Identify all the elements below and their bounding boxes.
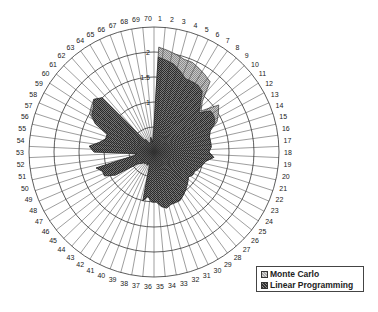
svg-text:5: 5 — [205, 26, 209, 33]
svg-text:3: 3 — [182, 18, 186, 25]
svg-text:53: 53 — [16, 149, 24, 156]
svg-text:33: 33 — [180, 280, 188, 287]
svg-text:1: 1 — [146, 99, 150, 106]
legend-label: Monte Carlo — [270, 269, 319, 280]
svg-text:38: 38 — [120, 280, 128, 287]
svg-text:2: 2 — [170, 16, 174, 23]
svg-text:46: 46 — [42, 228, 50, 235]
legend-item-linear-programming: Linear Programming — [261, 280, 363, 291]
svg-text:29: 29 — [224, 261, 232, 268]
svg-text:56: 56 — [21, 113, 29, 120]
svg-text:4: 4 — [193, 22, 197, 29]
svg-text:10: 10 — [251, 61, 259, 68]
svg-text:69: 69 — [132, 16, 140, 23]
svg-text:68: 68 — [120, 18, 128, 25]
svg-text:45: 45 — [49, 237, 57, 244]
svg-text:1.5: 1.5 — [140, 74, 150, 81]
svg-text:41: 41 — [87, 267, 95, 274]
svg-text:51: 51 — [18, 173, 26, 180]
svg-text:47: 47 — [35, 218, 43, 225]
svg-text:52: 52 — [17, 161, 25, 168]
svg-text:12: 12 — [265, 80, 273, 87]
svg-text:23: 23 — [271, 207, 279, 214]
svg-text:26: 26 — [251, 237, 259, 244]
svg-text:61: 61 — [49, 61, 57, 68]
svg-text:15: 15 — [279, 113, 287, 120]
svg-text:11: 11 — [259, 70, 266, 77]
svg-text:19: 19 — [284, 161, 292, 168]
svg-text:16: 16 — [282, 125, 290, 132]
svg-text:66: 66 — [97, 26, 105, 33]
chart-spokes — [29, 27, 279, 277]
svg-text:54: 54 — [17, 137, 25, 144]
svg-text:18: 18 — [284, 149, 292, 156]
svg-text:43: 43 — [67, 254, 75, 261]
legend-item-monte-carlo: Monte Carlo — [261, 269, 363, 280]
legend-label: Linear Programming — [270, 280, 353, 291]
svg-text:1: 1 — [158, 15, 162, 22]
svg-text:2: 2 — [146, 49, 150, 56]
legend-swatch-monte-carlo — [261, 271, 268, 278]
svg-text:39: 39 — [109, 276, 117, 283]
radial-tick-labels: 11.52 — [140, 49, 150, 106]
svg-text:65: 65 — [87, 31, 95, 38]
svg-text:44: 44 — [57, 246, 65, 253]
svg-text:27: 27 — [243, 246, 251, 253]
svg-text:67: 67 — [109, 22, 117, 29]
svg-text:59: 59 — [35, 80, 43, 87]
svg-text:30: 30 — [214, 267, 222, 274]
svg-text:42: 42 — [76, 261, 84, 268]
svg-text:57: 57 — [25, 102, 33, 109]
svg-text:37: 37 — [132, 282, 140, 289]
svg-text:13: 13 — [271, 91, 279, 98]
svg-text:32: 32 — [192, 276, 200, 283]
svg-text:34: 34 — [168, 282, 176, 289]
svg-text:48: 48 — [29, 207, 37, 214]
svg-text:36: 36 — [144, 283, 152, 290]
svg-text:7: 7 — [226, 37, 230, 44]
svg-text:40: 40 — [97, 272, 105, 279]
svg-text:63: 63 — [67, 44, 75, 51]
svg-text:9: 9 — [245, 52, 249, 59]
svg-text:21: 21 — [279, 185, 287, 192]
svg-text:62: 62 — [57, 52, 65, 59]
chart-legend: Monte Carlo Linear Programming — [256, 266, 364, 292]
svg-text:14: 14 — [276, 102, 284, 109]
svg-text:64: 64 — [76, 37, 84, 44]
svg-text:17: 17 — [284, 137, 292, 144]
svg-text:49: 49 — [25, 196, 33, 203]
svg-text:60: 60 — [42, 70, 50, 77]
svg-text:8: 8 — [236, 44, 240, 51]
svg-text:55: 55 — [18, 125, 26, 132]
svg-text:25: 25 — [259, 228, 267, 235]
svg-text:22: 22 — [276, 196, 284, 203]
svg-text:58: 58 — [29, 91, 37, 98]
svg-text:31: 31 — [203, 272, 211, 279]
svg-text:6: 6 — [216, 31, 220, 38]
svg-text:35: 35 — [156, 283, 164, 290]
svg-text:50: 50 — [21, 185, 29, 192]
svg-text:24: 24 — [265, 218, 273, 225]
legend-swatch-linear-programming — [261, 282, 268, 289]
svg-text:28: 28 — [234, 254, 242, 261]
svg-text:20: 20 — [282, 173, 290, 180]
svg-text:70: 70 — [144, 15, 152, 22]
